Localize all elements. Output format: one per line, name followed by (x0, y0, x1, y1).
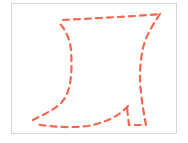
dashed-outline-shape (33, 14, 161, 127)
drawing-svg (0, 0, 188, 143)
